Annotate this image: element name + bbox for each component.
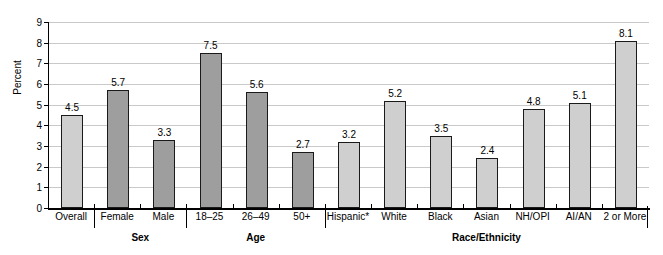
x-tick-mark <box>510 204 511 209</box>
bar[interactable] <box>569 103 591 208</box>
bar[interactable] <box>476 158 498 208</box>
bar-slot: 5.7 <box>107 22 129 208</box>
x-tick-mark <box>140 204 141 209</box>
bar-slot: 5.6 <box>246 22 268 208</box>
bar-slot: 8.1 <box>615 22 637 208</box>
bar[interactable] <box>200 53 222 208</box>
bar-slot: 3.2 <box>338 22 360 208</box>
bar-slot: 2.7 <box>292 22 314 208</box>
bar[interactable] <box>523 109 545 208</box>
bar-slot: 2.4 <box>476 22 498 208</box>
bar[interactable] <box>107 90 129 208</box>
y-tick-label: 0 <box>24 208 42 209</box>
bar[interactable] <box>153 140 175 208</box>
y-tick-label: 6 <box>24 84 42 85</box>
bar-slot: 3.3 <box>153 22 175 208</box>
bar-chart: Percent 0123456789 4.55.73.37.55.62.73.2… <box>0 0 663 255</box>
bar-value-label: 5.2 <box>374 88 416 99</box>
bar-value-label: 5.6 <box>236 79 278 90</box>
y-tick-label: 3 <box>24 146 42 147</box>
x-tick-mark <box>233 204 234 209</box>
bar[interactable] <box>615 41 637 208</box>
group-separator <box>647 206 648 228</box>
y-tick-label: 2 <box>24 167 42 168</box>
bar-slot: 3.5 <box>430 22 452 208</box>
bar-value-label: 3.5 <box>420 123 462 134</box>
y-tick-label: 8 <box>24 43 42 44</box>
bar-value-label: 5.1 <box>559 90 601 101</box>
group-separator <box>94 206 95 228</box>
bar-value-label: 3.3 <box>143 127 185 138</box>
group-separator <box>325 206 326 228</box>
x-axis-group-labels: SexAgeRace/Ethnicity <box>48 232 650 250</box>
y-tick-label: 4 <box>24 125 42 126</box>
bar[interactable] <box>292 152 314 208</box>
bar-slot: 5.1 <box>569 22 591 208</box>
y-tick-label: 7 <box>24 63 42 64</box>
bar-slot: 5.2 <box>384 22 406 208</box>
y-axis-title: Percent <box>12 33 23 123</box>
y-tick-label: 9 <box>24 22 42 23</box>
plot-area: 0123456789 4.55.73.37.55.62.73.25.23.52.… <box>48 22 649 208</box>
group-separator <box>186 206 187 228</box>
bar-series: 4.55.73.37.55.62.73.25.23.52.44.85.18.1 <box>49 22 649 208</box>
y-tick-mark <box>44 208 49 209</box>
x-category-label: 2 or More <box>596 211 654 222</box>
bar-value-label: 8.1 <box>605 28 647 39</box>
bar-slot: 7.5 <box>200 22 222 208</box>
x-tick-mark <box>602 204 603 209</box>
bar[interactable] <box>61 115 83 208</box>
bar-slot: 4.5 <box>61 22 83 208</box>
group-label: Race/Ethnicity <box>416 232 556 243</box>
x-tick-mark <box>417 204 418 209</box>
y-tick-label: 5 <box>24 105 42 106</box>
bar-slot: 4.8 <box>523 22 545 208</box>
bar[interactable] <box>384 101 406 208</box>
bar-value-label: 5.7 <box>97 77 139 88</box>
x-axis-category-labels: OverallFemaleMale18–2526–4950+Hispanic*W… <box>48 210 650 230</box>
bar[interactable] <box>430 136 452 208</box>
bar-value-label: 3.2 <box>328 129 370 140</box>
bar-value-label: 4.5 <box>51 102 93 113</box>
bar-value-label: 2.7 <box>282 139 324 150</box>
bar-value-label: 2.4 <box>466 145 508 156</box>
bar-value-label: 4.8 <box>513 96 555 107</box>
y-tick-label: 1 <box>24 187 42 188</box>
x-tick-mark <box>556 204 557 209</box>
bar[interactable] <box>246 92 268 208</box>
x-tick-mark <box>279 204 280 209</box>
bar[interactable] <box>338 142 360 208</box>
bar-value-label: 7.5 <box>190 40 232 51</box>
x-tick-mark <box>463 204 464 209</box>
group-label: Age <box>186 232 326 243</box>
x-tick-mark <box>371 204 372 209</box>
